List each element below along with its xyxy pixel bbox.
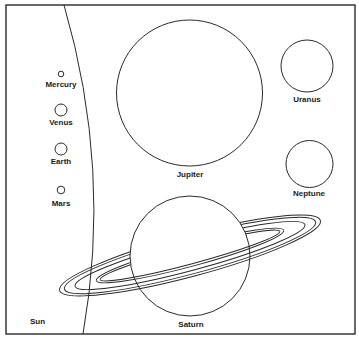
planet-mars: Mars — [52, 186, 71, 208]
mars-circle — [57, 186, 65, 194]
earth-label: Earth — [51, 157, 72, 166]
uranus-circle — [281, 40, 333, 92]
planet-uranus: Uranus — [281, 40, 333, 104]
neptune-circle — [286, 141, 333, 188]
saturn-circle — [130, 196, 250, 316]
saturn-label: Saturn — [178, 320, 203, 329]
planet-neptune: Neptune — [286, 141, 333, 199]
planet-jupiter: Jupiter — [117, 20, 263, 179]
sun-edge-arc — [64, 5, 94, 334]
planet-earth: Earth — [51, 143, 72, 166]
planet-saturn: Saturn — [54, 196, 326, 329]
jupiter-label: Jupiter — [177, 170, 204, 179]
uranus-label: Uranus — [293, 95, 321, 104]
planet-venus: Venus — [49, 104, 73, 127]
neptune-label: Neptune — [293, 189, 326, 198]
venus-circle — [55, 104, 67, 116]
solar-system-diagram: Sun Mercury Venus Earth Mars Jupiter Ura… — [0, 0, 359, 345]
planet-mercury: Mercury — [45, 71, 77, 89]
jupiter-circle — [117, 20, 263, 166]
earth-circle — [55, 143, 67, 155]
mercury-label: Mercury — [45, 80, 77, 89]
mars-label: Mars — [52, 199, 71, 208]
sun-label: Sun — [30, 317, 45, 326]
venus-label: Venus — [49, 118, 73, 127]
mercury-circle — [58, 71, 64, 77]
